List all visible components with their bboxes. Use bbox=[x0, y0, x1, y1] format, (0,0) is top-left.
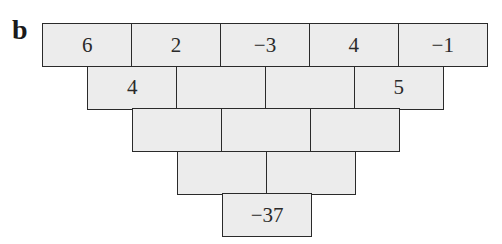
pyramid-row-1: 6 2 −3 4 −1 bbox=[42, 23, 488, 67]
pyramid-row-4 bbox=[177, 151, 356, 195]
part-label: b bbox=[12, 14, 28, 46]
pyramid-row-3 bbox=[132, 108, 400, 152]
pyramid-cell-empty[interactable] bbox=[310, 108, 400, 152]
pyramid-row-2: 4 5 bbox=[87, 66, 444, 110]
pyramid-cell: −1 bbox=[398, 23, 488, 67]
pyramid-cell-empty[interactable] bbox=[176, 66, 266, 110]
pyramid-cell: −3 bbox=[220, 23, 310, 67]
pyramid-cell: 6 bbox=[42, 23, 132, 67]
pyramid-cell: 2 bbox=[131, 23, 221, 67]
pyramid-cell: 4 bbox=[87, 66, 177, 110]
pyramid-cell-empty[interactable] bbox=[266, 151, 356, 195]
pyramid-cell: 5 bbox=[354, 66, 444, 110]
pyramid-cell-empty[interactable] bbox=[132, 108, 222, 152]
pyramid-cell: −37 bbox=[222, 193, 312, 237]
pyramid-cell-empty[interactable] bbox=[265, 66, 355, 110]
pyramid-row-5: −37 bbox=[222, 193, 312, 237]
pyramid-cell: 4 bbox=[309, 23, 399, 67]
pyramid-cell-empty[interactable] bbox=[177, 151, 267, 195]
pyramid-cell-empty[interactable] bbox=[221, 108, 311, 152]
